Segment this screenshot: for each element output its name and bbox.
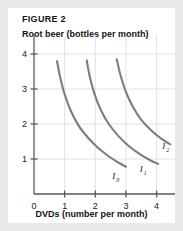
y-tick-label: 2	[22, 119, 27, 129]
y-tick-label: 3	[22, 84, 27, 94]
figure-number-label: FIGURE 2	[22, 14, 66, 24]
curve-label-I1: I1	[139, 164, 147, 176]
indifference-curves-chart: 123401234 I0I1I2	[8, 34, 175, 223]
axis-ticks	[31, 54, 157, 198]
curve-label-subscript: 1	[144, 170, 147, 176]
curve-labels-group: I0I1I2	[111, 141, 169, 183]
figure-panel: FIGURE 2 Root beer (bottles per month) 1…	[8, 8, 175, 223]
indifference-curve-I0	[57, 61, 126, 167]
curve-label-I0: I0	[111, 171, 119, 183]
axis-tick-labels: 123401234	[22, 49, 159, 211]
curve-label-subscript: 0	[116, 177, 119, 183]
y-tick-label: 4	[22, 49, 27, 59]
axes	[34, 34, 175, 194]
curve-label-subscript: 2	[166, 147, 169, 153]
plot-area: 123401234 I0I1I2	[8, 34, 175, 223]
y-tick-label: 1	[22, 154, 27, 164]
curve-series-group	[57, 59, 170, 166]
x-axis-title: DVDs (number per month)	[8, 209, 175, 219]
indifference-curve-I2	[117, 59, 171, 144]
